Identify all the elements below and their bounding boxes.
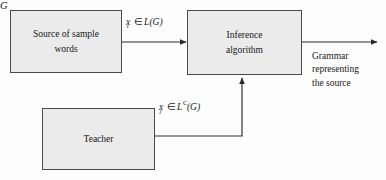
node-inference-label-line1: Inference — [227, 30, 263, 40]
node-source-of-sample-words: Source of sample words — [10, 10, 122, 73]
edge-label-language: L(G) — [144, 17, 162, 27]
edge-label-language-prefix: L — [177, 102, 182, 112]
node-source-label-line1: Source of sample — [33, 29, 99, 39]
node-teacher: Teacher — [42, 108, 155, 170]
edge-label-superscript-complement: C — [183, 99, 188, 106]
node-inference-label-line2: algorithm — [226, 45, 263, 55]
edge-label-teacher-to-inference: xj∈LC(G) — [159, 101, 200, 112]
output-description-line2: representing — [312, 64, 359, 74]
edge-label-subscript: i — [127, 22, 129, 29]
edge-label-source-to-inference: xi∈L(G) — [126, 16, 163, 27]
node-teacher-label: Teacher — [78, 132, 120, 147]
output-description: Grammar representing the source — [312, 50, 386, 90]
element-of-icon: ∈ — [165, 101, 177, 112]
output-description-line1: Grammar — [312, 51, 348, 61]
element-of-icon: ∈ — [132, 16, 144, 27]
node-inference-algorithm: Inference algorithm — [187, 10, 302, 75]
edge-label-subscript: j — [160, 107, 162, 114]
node-source-label: Source of sample words — [27, 27, 105, 56]
diagram-canvas: Source of sample words Inference algorit… — [0, 0, 386, 180]
node-source-label-line2: words — [54, 44, 77, 54]
output-description-line3: the source — [312, 78, 351, 88]
edge-label-language-suffix: (G) — [187, 102, 200, 112]
node-inference-label: Inference algorithm — [220, 28, 269, 57]
